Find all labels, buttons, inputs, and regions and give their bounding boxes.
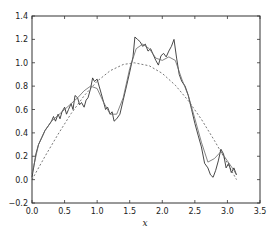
plot-frame [32, 16, 260, 203]
y-tick-label: 0.6 [15, 106, 28, 115]
y-tick-label: 0.2 [15, 152, 28, 161]
y-tick-label: −0.2 [9, 199, 28, 208]
y-tick-label: 0.4 [15, 129, 28, 138]
y-tick-label: 1.0 [15, 59, 28, 68]
y-tick-label: 0.0 [15, 176, 28, 185]
series-line-2 [32, 44, 237, 175]
x-tick-label: 2.5 [188, 207, 201, 216]
x-tick-label: 0.0 [26, 207, 39, 216]
x-tick-label: 0.5 [58, 207, 71, 216]
y-tick-label: 1.4 [15, 12, 28, 21]
y-tick-label: 0.8 [15, 82, 28, 91]
x-tick-label: 3.5 [254, 207, 267, 216]
y-tick-label: 1.2 [15, 35, 28, 44]
line-chart: 0.00.51.01.52.02.53.03.5 −0.20.00.20.40.… [0, 0, 279, 239]
x-tick-label: 2.0 [156, 207, 169, 216]
plot-border [32, 16, 260, 203]
series-line-0 [32, 63, 237, 180]
x-tick-label: 3.0 [221, 207, 234, 216]
series-layer [32, 37, 237, 180]
x-tick-label: 1.0 [91, 207, 104, 216]
x-axis-label: x [142, 218, 147, 228]
x-tick-label: 1.5 [123, 207, 136, 216]
